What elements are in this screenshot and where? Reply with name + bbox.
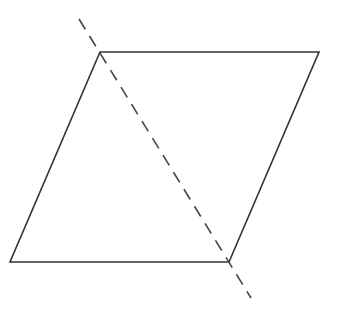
diagram-canvas — [0, 0, 339, 313]
dashed-symmetry-line — [79, 19, 251, 298]
